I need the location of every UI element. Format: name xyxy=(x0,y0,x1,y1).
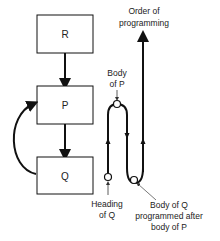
order-label-line2: programming xyxy=(119,18,169,28)
body-q-label-line1: Body of Q xyxy=(150,200,188,210)
heading-q-label-line2: of Q xyxy=(99,210,115,220)
body-q-label-line2: programmed after xyxy=(135,211,203,221)
path-arrow-up-right xyxy=(141,138,146,144)
body-p-label-line1: Body xyxy=(107,68,127,78)
diagram-svg: R P Q Order of programming Body of P Hea… xyxy=(0,0,220,241)
box-r-label: R xyxy=(61,29,68,40)
box-q: Q xyxy=(37,157,93,194)
diagram-canvas: R P Q Order of programming Body of P Hea… xyxy=(0,0,220,241)
programming-path xyxy=(108,104,143,183)
box-r: R xyxy=(37,15,93,53)
node-body-of-q xyxy=(131,177,138,184)
path-arrow-up-left xyxy=(106,138,111,144)
heading-q-label-line1: Heading xyxy=(91,199,123,209)
curved-arrow-q-to-p xyxy=(14,104,36,174)
body-p-label-line2: of P xyxy=(109,79,124,89)
node-body-of-p xyxy=(114,101,121,108)
path-arrow-down-middle xyxy=(125,133,130,139)
order-label-line1: Order of xyxy=(128,6,160,16)
box-q-label: Q xyxy=(61,171,69,182)
body-q-pointer xyxy=(138,184,156,200)
body-q-label-line3: body of P xyxy=(151,222,187,232)
node-heading-of-q xyxy=(105,174,112,181)
box-p: P xyxy=(37,86,93,124)
box-p-label: P xyxy=(62,100,69,111)
